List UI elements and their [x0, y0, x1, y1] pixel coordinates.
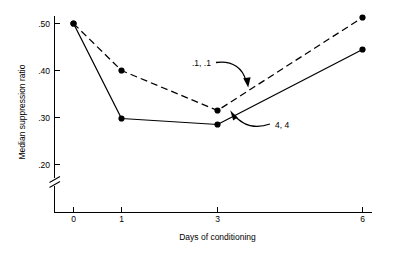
x-tick-label-0: 0	[71, 214, 76, 224]
y-tick-label-3: .20	[38, 160, 50, 170]
series-dashed-group	[70, 14, 365, 113]
series-solid-marker-0	[70, 20, 76, 26]
y-tick-label-1: .40	[38, 66, 50, 76]
x-axis-title: Days of conditioning	[179, 232, 256, 242]
y-tick-label-0: .50	[38, 19, 50, 29]
annotation-arrow-dashed	[216, 62, 246, 81]
y-axis-break-icon	[50, 177, 61, 188]
annotation-label-solid: 4, 4	[275, 120, 289, 130]
x-tick-group: 0 1 3 6	[71, 207, 365, 224]
y-tick-label-2: .30	[38, 113, 50, 123]
annotation-arrowhead-dashed	[243, 77, 250, 87]
chart-canvas: .50 .40 .30 .20 0 1 3 6	[0, 0, 395, 254]
y-tick-group: .50 .40 .30 .20	[38, 19, 60, 170]
axes-group	[50, 16, 373, 213]
series-dashed-marker-2	[214, 107, 220, 113]
annotation-dashed-group: .1, .1	[192, 58, 251, 88]
series-dashed-marker-1	[118, 67, 124, 73]
annotation-arrow-solid	[234, 115, 270, 126]
series-dashed-marker-3	[359, 14, 365, 20]
series-solid-marker-3	[359, 46, 365, 52]
x-tick-label-3: 6	[360, 214, 365, 224]
series-dashed-line	[74, 18, 363, 111]
series-solid-marker-1	[118, 115, 124, 121]
annotation-label-dashed: .1, .1	[192, 58, 211, 68]
y-axis-title: Median suppression ratio	[17, 64, 27, 159]
series-solid-marker-2	[214, 121, 220, 127]
x-tick-label-1: 1	[119, 214, 124, 224]
x-tick-label-2: 3	[215, 214, 220, 224]
chart-figure: .50 .40 .30 .20 0 1 3 6	[0, 0, 395, 254]
